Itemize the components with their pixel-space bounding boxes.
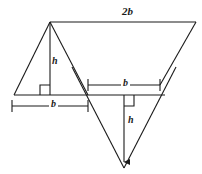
- inverted-triangle-left-edge: [72, 67, 124, 168]
- left-triangle-left-edge: [14, 22, 50, 95]
- label-base-upper: b: [121, 78, 130, 88]
- diagram-canvas: 2b h h b b: [0, 0, 202, 174]
- upper-right-angle-marker: [40, 85, 50, 95]
- label-height-lower: h: [128, 115, 134, 125]
- parallelogram-right-edge: [160, 22, 196, 85]
- label-base-lower: b: [49, 99, 58, 109]
- lower-right-angle-marker: [124, 95, 134, 106]
- label-height-upper: h: [52, 56, 58, 66]
- label-top-base-2b: 2b: [122, 6, 133, 17]
- geometry-figure: [0, 0, 202, 174]
